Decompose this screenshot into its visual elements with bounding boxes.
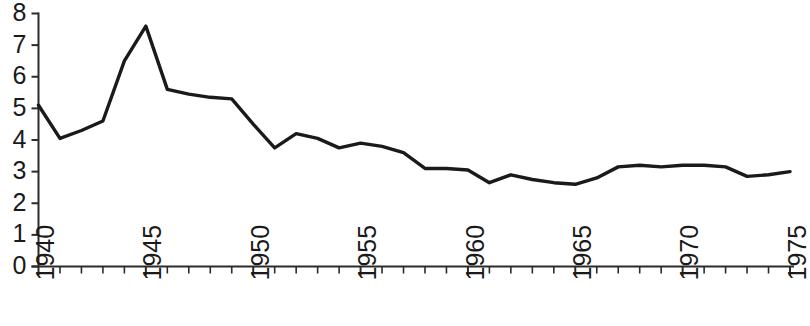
x-tick-label: 1970 [675, 225, 703, 281]
x-tick-label: 1975 [783, 225, 810, 281]
y-tick-label: 0 [13, 251, 27, 279]
x-tick-label: 1940 [31, 225, 59, 281]
x-tick-label: 1955 [353, 225, 381, 281]
y-tick-label: 7 [13, 30, 27, 58]
line-chart: 012345678 194019451950195519601965197019… [0, 0, 810, 326]
y-tick-label: 8 [13, 0, 27, 26]
series-line [39, 26, 791, 184]
x-axis: 19401945195019551960196519701975 [31, 225, 810, 281]
x-tick-label: 1965 [568, 225, 596, 281]
y-tick-label: 4 [13, 125, 27, 153]
chart-canvas: 012345678 194019451950195519601965197019… [0, 0, 810, 326]
y-tick-label: 3 [13, 156, 27, 184]
y-tick-label: 6 [13, 61, 27, 89]
y-tick-label: 2 [13, 188, 27, 216]
y-tick-label: 5 [13, 93, 27, 121]
x-tick-label: 1960 [461, 225, 489, 281]
x-tick-label: 1945 [138, 225, 166, 281]
x-tick-label: 1950 [246, 225, 274, 281]
data-series [39, 26, 791, 184]
y-tick-label: 1 [13, 219, 27, 247]
